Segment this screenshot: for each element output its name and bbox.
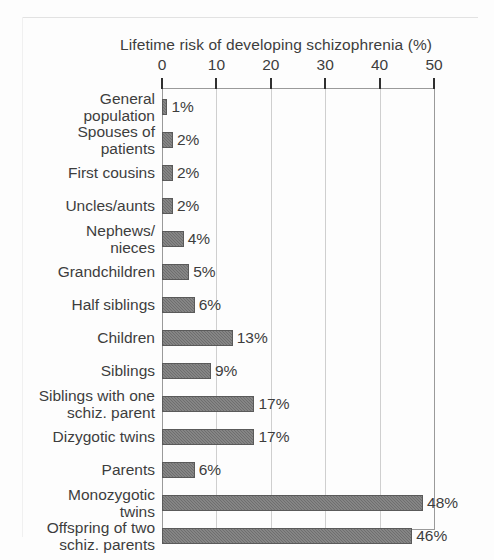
- bar-row: Grandchildren5%: [162, 255, 434, 288]
- category-label-line: Siblings with one: [39, 387, 155, 404]
- bar: [162, 330, 233, 346]
- bar: [162, 297, 195, 313]
- category-label-line: Children: [97, 329, 155, 346]
- tick-mark-0: [161, 78, 163, 89]
- category-label-line: nieces: [110, 239, 155, 256]
- bar-row: Nephews/nieces4%: [162, 222, 434, 255]
- category-label: Dizygotic twins: [0, 420, 155, 453]
- tick-mark-10: [215, 78, 217, 89]
- bar-value-label: 6%: [199, 296, 221, 314]
- chart-figure: Lifetime risk of developing schizophreni…: [0, 0, 494, 560]
- bar: [162, 528, 412, 544]
- bar-row: First cousins2%: [162, 156, 434, 189]
- category-label-line: Uncles/aunts: [65, 197, 155, 214]
- bar-value-label: 17%: [258, 428, 289, 446]
- category-label: Generalpopulation: [0, 90, 155, 123]
- bar-value-label: 17%: [258, 395, 289, 413]
- category-label-line: Monozygotic: [68, 486, 155, 503]
- bar: [162, 99, 167, 115]
- bar: [162, 165, 173, 181]
- category-label: Nephews/nieces: [0, 222, 155, 255]
- bar-value-label: 4%: [188, 230, 210, 248]
- bar: [162, 264, 189, 280]
- bar: [162, 429, 254, 445]
- bar-value-label: 2%: [177, 164, 199, 182]
- category-label: Siblings with oneschiz. parent: [0, 387, 155, 420]
- category-label-line: Parents: [102, 461, 155, 478]
- bar-row: Siblings with oneschiz. parent17%: [162, 387, 434, 420]
- category-label-line: Half siblings: [71, 296, 155, 313]
- category-label: Children: [0, 321, 155, 354]
- category-label: Monozygotictwins: [0, 486, 155, 519]
- category-label-line: twins: [120, 503, 155, 520]
- category-label-line: Grandchildren: [58, 263, 155, 280]
- category-label: Uncles/aunts: [0, 189, 155, 222]
- x-tick-label: 20: [262, 56, 279, 74]
- category-label-line: patients: [101, 140, 155, 157]
- x-tick-label: 40: [371, 56, 388, 74]
- bar-value-label: 2%: [177, 197, 199, 215]
- category-label-line: Dizygotic twins: [53, 428, 156, 445]
- category-label-line: Nephews/: [86, 222, 155, 239]
- category-label-line: Siblings: [101, 362, 155, 379]
- bar-value-label: 13%: [237, 329, 268, 347]
- bar: [162, 198, 173, 214]
- category-label: Grandchildren: [0, 255, 155, 288]
- bar: [162, 495, 423, 511]
- category-label-line: First cousins: [68, 164, 155, 181]
- plot-area: 01020304050 Generalpopulation1%Spouses o…: [162, 88, 434, 530]
- x-tick-label: 10: [208, 56, 225, 74]
- bar: [162, 231, 184, 247]
- category-label: Siblings: [0, 354, 155, 387]
- bar-value-label: 1%: [171, 98, 193, 116]
- bar-value-label: 6%: [199, 461, 221, 479]
- bar-row: Monozygotictwins48%: [162, 486, 434, 519]
- axis-top-line: [162, 88, 434, 89]
- bar-value-label: 9%: [215, 362, 237, 380]
- tick-mark-30: [324, 78, 326, 89]
- category-label: Spouses ofpatients: [0, 123, 155, 156]
- tick-mark-40: [379, 78, 381, 89]
- x-tick-label: 0: [158, 56, 167, 74]
- bar-value-label: 46%: [416, 527, 447, 545]
- bar-row: Parents6%: [162, 453, 434, 486]
- category-label-line: population: [83, 107, 155, 124]
- bar: [162, 396, 254, 412]
- x-tick-label: 50: [425, 56, 442, 74]
- bar-value-label: 5%: [193, 263, 215, 281]
- bar-row: Dizygotic twins17%: [162, 420, 434, 453]
- bar-row: Spouses ofpatients2%: [162, 123, 434, 156]
- bar-row: Siblings9%: [162, 354, 434, 387]
- category-label-line: Spouses of: [77, 123, 155, 140]
- bar-row: Offspring of twoschiz. parents46%: [162, 519, 434, 552]
- bar-value-label: 2%: [177, 131, 199, 149]
- category-label-line: schiz. parent: [67, 404, 155, 421]
- category-label: Half siblings: [0, 288, 155, 321]
- tick-mark-50: [433, 78, 435, 89]
- category-label-line: schiz. parents: [59, 536, 155, 553]
- bar-row: Uncles/aunts2%: [162, 189, 434, 222]
- category-label: Offspring of twoschiz. parents: [0, 519, 155, 552]
- bar: [162, 132, 173, 148]
- bar-row: Generalpopulation1%: [162, 90, 434, 123]
- page-border-top: [22, 17, 478, 18]
- category-label-line: Offspring of two: [47, 519, 155, 536]
- bar: [162, 363, 211, 379]
- category-label: First cousins: [0, 156, 155, 189]
- tick-mark-20: [270, 78, 272, 89]
- bar-row: Half siblings6%: [162, 288, 434, 321]
- bar: [162, 462, 195, 478]
- bar-row: Children13%: [162, 321, 434, 354]
- category-label-line: General: [100, 90, 155, 107]
- category-label: Parents: [0, 453, 155, 486]
- x-tick-label: 30: [317, 56, 334, 74]
- chart-title: Lifetime risk of developing schizophreni…: [120, 36, 480, 54]
- bar-value-label: 48%: [427, 494, 458, 512]
- gridline-50: [434, 88, 435, 530]
